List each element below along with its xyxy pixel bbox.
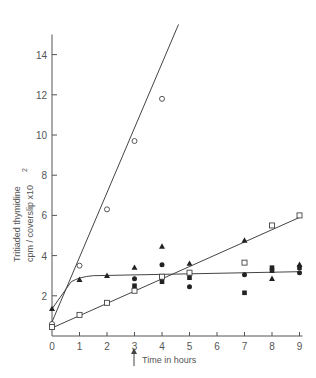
open-square-marker [132, 288, 137, 293]
x-tick-label: 7 [242, 341, 248, 352]
open-circle-marker [160, 96, 165, 101]
x-tick-label: 0 [49, 341, 55, 352]
open-square-marker [105, 300, 110, 305]
y-axis-title-line1: Tritiaded thymidine [12, 186, 22, 262]
filled-circle-marker [160, 262, 165, 267]
y-tick-label: 4 [41, 251, 47, 262]
open-square-marker [297, 213, 302, 218]
y-tick-label: 10 [36, 130, 48, 141]
open-square-marker [50, 324, 55, 329]
y-axis-title-exponent: 2 [21, 168, 28, 172]
y-tick-label: 14 [36, 50, 48, 61]
filled-square-marker [132, 283, 137, 288]
axes: 01234567892468101214 [36, 35, 303, 353]
x-tick-label: 5 [187, 341, 193, 352]
x-tick-label: 4 [159, 341, 165, 352]
filled-triangle-marker [242, 237, 248, 242]
filled-circle-marker [242, 272, 247, 277]
x-tick-label: 6 [214, 341, 220, 352]
filled-square-marker [160, 279, 165, 284]
filled-square-marker [187, 275, 192, 280]
filled-triangle-marker [269, 276, 275, 281]
open-circle-marker [132, 139, 137, 144]
filled-circle-marker [297, 270, 302, 275]
chart: 01234567892468101214 Tritiaded thymidine… [0, 0, 316, 378]
y-tick-label: 8 [41, 170, 47, 181]
filled-triangle-marker [132, 264, 138, 269]
filled-square-marker [270, 268, 275, 273]
x-tick-label: 8 [269, 341, 275, 352]
y-tick-label: 12 [36, 90, 48, 101]
open-square-marker [77, 312, 82, 317]
y-axis-title-line2: cpm / coverslip x10 [25, 185, 35, 262]
filled-triangle-marker [159, 243, 165, 248]
x-tick-label: 2 [104, 341, 110, 352]
y-tick-label: 2 [41, 291, 47, 302]
filled-circle-marker [132, 276, 137, 281]
filled-square-marker [297, 265, 302, 270]
filled-circle-marker [187, 284, 192, 289]
y-tick-label: 6 [41, 210, 47, 221]
fit-lines [52, 24, 300, 328]
x-tick-label: 1 [77, 341, 83, 352]
filled-triangle-marker [187, 260, 193, 265]
data-markers [49, 96, 303, 329]
filled-square-marker [242, 290, 247, 295]
open-square-marker [270, 223, 275, 228]
x-tick-label: 9 [297, 341, 303, 352]
x-axis-title: Time in hours [142, 355, 197, 365]
open-square-marker [242, 260, 247, 265]
open-square-marker [160, 274, 165, 279]
open-circle-marker [77, 263, 82, 268]
open-circle-marker [105, 207, 110, 212]
open-square-marker [187, 270, 192, 275]
fit-line [52, 272, 300, 309]
